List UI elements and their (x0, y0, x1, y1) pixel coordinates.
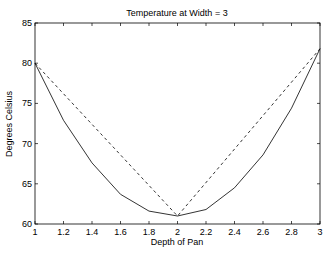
x-tick-label: 2.6 (257, 227, 270, 237)
x-tick-label: 1.6 (114, 227, 127, 237)
y-tick-label: 80 (22, 58, 32, 68)
x-tick-label: 1 (32, 227, 37, 237)
x-tick-label: 1.2 (57, 227, 70, 237)
x-axis-label: Depth of Pan (151, 237, 204, 247)
chart-title: Temperature at Width = 3 (126, 8, 227, 18)
y-tick-label: 65 (22, 179, 32, 189)
line-chart: Temperature at Width = 3 11.21.41.61.822… (0, 0, 332, 254)
x-tick-label: 3 (317, 227, 322, 237)
y-tick-label: 60 (22, 219, 32, 229)
y-tick-label: 75 (22, 98, 32, 108)
x-tick-label: 2.2 (200, 227, 213, 237)
y-axis-label: Degrees Celsius (4, 90, 14, 157)
x-tick-label: 2.8 (285, 227, 298, 237)
y-tick-label: 70 (22, 139, 32, 149)
x-tick-label: 1.8 (143, 227, 156, 237)
x-tick-label: 2 (175, 227, 180, 237)
plot-area (35, 23, 320, 224)
y-tick-labels: 606570758085 (22, 18, 32, 229)
y-tick-label: 85 (22, 18, 32, 28)
x-tick-label: 1.4 (86, 227, 99, 237)
x-tick-label: 2.4 (228, 227, 241, 237)
x-tick-labels: 11.21.41.61.822.22.42.62.83 (32, 227, 322, 237)
